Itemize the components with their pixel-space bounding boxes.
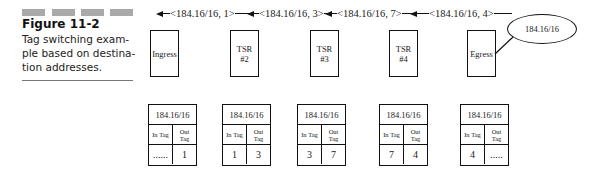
label-advertisement: <184.16/16, 1> [156,8,249,19]
table-prefix: 184.16/16 [223,105,270,125]
decorative-dash [22,9,45,16]
in-tag-value: 3 [298,145,322,164]
out-tag-header: Out [329,128,339,135]
destination-network: 184.16/16 [507,14,577,44]
node-egress: Egress [467,30,496,77]
out-tag-value: 3 [247,145,270,164]
decorative-dash [81,9,104,16]
out-tag-header: Out [180,128,190,135]
tag-table: 184.16/16 In TagOutTag 13 [222,104,271,166]
arrow-shaft [494,13,512,14]
node-label: TSR [317,44,333,54]
in-tag-header: In Tag [223,125,247,144]
advertisement-label: <184.16/16, 3> [259,8,324,19]
table-prefix: 184.16/16 [380,105,427,125]
node-ingress: Ingress [150,30,179,77]
out-tag-header: Tag [254,135,264,142]
tag-table: 184.16/16 In TagOutTag 74 [379,104,428,166]
advertisement-label: <184.16/16, 4> [429,8,494,19]
arrow-shaft [417,13,429,14]
arrow-left-icon [410,11,417,17]
label-advertisement: <184.16/16, 4> [410,8,512,19]
in-tag-header: In Tag [461,125,485,144]
arrow-left-icon [325,11,332,17]
out-tag-header: Tag [329,135,339,142]
tag-table: 184.16/16 In TagOutTag 37 [297,104,346,166]
out-tag-value: 4 [404,145,427,164]
arrow-left-icon [156,11,163,17]
caption-line: ple based on destina- [22,46,137,60]
arrow-shaft [163,13,170,14]
out-tag-header: Out [254,128,264,135]
figure-caption: Tag switching exam- ple based on destina… [22,32,137,74]
tag-table: 184.16/16 In TagOutTag ......1 [148,104,197,166]
decorative-dash [110,9,133,16]
out-tag-value: 7 [322,145,345,164]
caption-divider [22,80,133,81]
in-tag-header: In Tag [298,125,322,144]
caption-line: tion addresses. [22,60,137,74]
arrow-left-icon [247,11,254,17]
node-label: TSR [237,44,253,54]
out-tag-header: Out [492,128,502,135]
node-label: Egress [470,49,493,59]
in-tag-header: In Tag [380,125,404,144]
advertisement-label: <184.16/16, 1> [170,8,235,19]
node-sublabel: #3 [317,54,333,64]
node-tsr-4: TSR#4 [389,30,418,77]
in-tag-value: 1 [223,145,247,164]
out-tag-header: Tag [411,135,421,142]
node-tsr-2: TSR#2 [230,30,259,77]
out-tag-header: Out [411,128,421,135]
in-tag-value: ...... [149,145,173,164]
table-prefix: 184.16/16 [461,105,508,125]
figure-number: Figure 11-2 [22,17,100,31]
in-tag-value: 7 [380,145,404,164]
destination-label: 184.16/16 [525,24,559,34]
label-advertisement: <184.16/16, 7> [325,8,412,19]
node-sublabel: #4 [396,54,412,64]
decorative-dash [52,9,75,16]
caption-line: Tag switching exam- [22,32,137,46]
in-tag-header: In Tag [149,125,173,144]
out-tag-header: Tag [180,135,190,142]
node-label: Ingress [152,49,177,59]
node-label: TSR [396,44,412,54]
advertisement-label: <184.16/16, 7> [337,8,402,19]
out-tag-value: ..... [485,145,508,164]
in-tag-value: 4 [461,145,485,164]
table-prefix: 184.16/16 [149,105,196,125]
tag-table: 184.16/16 In TagOutTag 4..... [460,104,509,166]
out-tag-value: 1 [173,145,196,164]
out-tag-header: Tag [492,135,502,142]
node-tsr-3: TSR#3 [310,30,339,77]
node-sublabel: #2 [237,54,253,64]
table-prefix: 184.16/16 [298,105,345,125]
label-advertisement: <184.16/16, 3> [247,8,334,19]
